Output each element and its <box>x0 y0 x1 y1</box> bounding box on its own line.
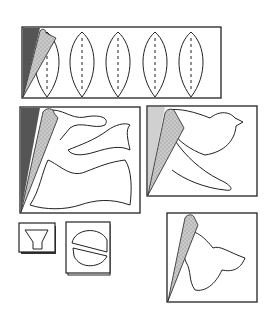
panel-blob <box>167 213 257 302</box>
panel-circle-split <box>66 222 110 275</box>
panel-vase <box>19 223 56 254</box>
pattern-diagram <box>0 0 271 322</box>
panel-wave-fish <box>20 107 140 213</box>
panel-leaves <box>22 27 221 98</box>
panel-bird <box>147 106 257 196</box>
